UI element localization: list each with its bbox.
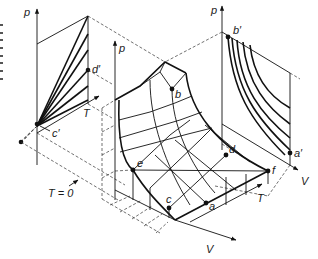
label-f: f bbox=[272, 164, 276, 176]
label-b: b bbox=[175, 88, 181, 100]
point-a bbox=[204, 201, 209, 206]
label-c-prime: c′ bbox=[52, 127, 61, 139]
t-zero-arrow bbox=[69, 180, 78, 186]
label-a-prime: a′ bbox=[294, 147, 303, 159]
point-b bbox=[170, 87, 175, 92]
label-c: c bbox=[166, 193, 172, 205]
center-p-axis-label: p bbox=[118, 42, 125, 54]
point-d bbox=[224, 153, 229, 158]
pt-projection-plane bbox=[19, 9, 99, 165]
right-p-axis-label: p bbox=[210, 4, 217, 16]
left-p-axis-label: p bbox=[23, 6, 30, 18]
isochore-lines bbox=[37, 16, 88, 126]
center-T-axis-label: T bbox=[257, 192, 265, 204]
point-c-prime bbox=[35, 122, 40, 127]
point-a-prime bbox=[288, 151, 293, 156]
isobar-e-f bbox=[133, 170, 268, 171]
label-a: a bbox=[209, 200, 215, 212]
isochore-dashed-extensions bbox=[20, 126, 37, 142]
label-d: d bbox=[229, 143, 236, 155]
label-e: e bbox=[137, 157, 143, 169]
point-c bbox=[167, 206, 172, 211]
center-V-axis bbox=[175, 220, 236, 240]
left-T-axis-label: T bbox=[83, 107, 91, 119]
point-f bbox=[266, 169, 271, 174]
t-zero-label: T = 0 bbox=[48, 187, 74, 199]
point-e bbox=[131, 168, 136, 173]
pvt-surface bbox=[115, 41, 270, 240]
pvt-surface-diagram: p T d′ c′ T = 0 bbox=[0, 0, 318, 259]
right-V-axis-label: V bbox=[301, 175, 310, 187]
center-V-axis-label: V bbox=[206, 243, 215, 255]
point-b-prime bbox=[226, 35, 231, 40]
plane-top-edge bbox=[37, 16, 88, 44]
label-b-prime: b′ bbox=[233, 24, 242, 36]
